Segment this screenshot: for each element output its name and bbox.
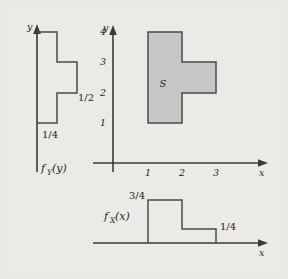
main-y-tick-3: 3 xyxy=(100,56,106,67)
fy-step-curve xyxy=(37,32,77,123)
fx-function-label: f X (x) xyxy=(103,210,130,225)
marginal-fy-plot: y 1/2 1/4 f Y (y) xyxy=(26,21,94,177)
fy-axis-label: y xyxy=(26,21,33,32)
fy-label-arg: (y) xyxy=(52,162,67,175)
main-x-tick-2: 2 xyxy=(178,167,185,178)
fx-label-arg: (x) xyxy=(115,210,130,223)
main-x-axis-label: x xyxy=(259,167,265,178)
fx-value-label-three-quarters: 3/4 xyxy=(129,190,145,201)
marginal-fx-plot: x 3/4 1/4 f X (x) xyxy=(93,190,268,258)
main-x-tick-1: 1 xyxy=(145,167,151,178)
region-S-plot: y x 1 2 3 4 1 2 3 S xyxy=(93,22,268,178)
fy-value-label-half: 1/2 xyxy=(78,92,94,103)
main-x-tick-3: 3 xyxy=(213,167,219,178)
figure-container: y 1/2 1/4 f Y (y) y x 1 xyxy=(0,0,288,279)
main-y-axis-arrowhead xyxy=(109,25,117,35)
main-y-tick-4: 4 xyxy=(99,26,106,37)
main-y-tick-1: 1 xyxy=(100,117,106,128)
main-y-tick-2: 2 xyxy=(99,87,106,98)
fx-axis-arrowhead xyxy=(258,239,268,247)
fy-label-f: f xyxy=(40,162,47,175)
fy-value-label-quarter: 1/4 xyxy=(42,129,58,140)
main-x-axis-arrowhead xyxy=(258,159,268,167)
figure-svg: y 1/2 1/4 f Y (y) y x 1 xyxy=(0,0,288,279)
region-S-polygon xyxy=(148,32,216,123)
fy-function-label: f Y (y) xyxy=(40,162,67,177)
fx-axis-label: x xyxy=(259,247,265,258)
fx-step-curve xyxy=(148,200,216,243)
fx-value-label-quarter: 1/4 xyxy=(220,221,236,232)
region-S-label: S xyxy=(160,78,167,89)
fx-label-f: f xyxy=(103,210,110,223)
